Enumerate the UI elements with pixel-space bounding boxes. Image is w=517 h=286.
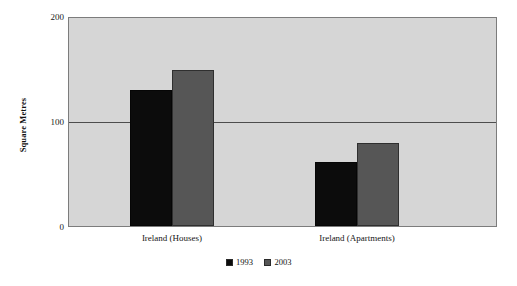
y-tick-label-100: 100 xyxy=(24,117,64,127)
legend-label-1993: 1993 xyxy=(236,258,253,267)
legend-entry-2003: 2003 xyxy=(264,258,292,267)
x-axis-label-houses: Ireland (Houses) xyxy=(102,233,242,243)
legend-swatch-icon-2003 xyxy=(264,259,271,266)
bar-outline xyxy=(357,143,399,226)
bar-houses-2003 xyxy=(172,70,214,226)
legend-entry-1993: 1993 xyxy=(226,258,254,267)
legend-swatch-icon-1993 xyxy=(226,259,233,266)
y-tick-label-0: 0 xyxy=(24,222,64,232)
y-tick-label-200: 200 xyxy=(24,12,64,22)
plot-area xyxy=(68,17,497,227)
legend-label-2003: 2003 xyxy=(275,258,292,267)
bar-houses-1993 xyxy=(130,90,172,226)
bar-outline xyxy=(315,162,357,226)
bar-outline xyxy=(172,70,214,226)
bar-apartments-1993 xyxy=(315,162,357,226)
x-axis-label-apartments: Ireland (Apartments) xyxy=(287,233,427,243)
chart-legend: 1993 2003 xyxy=(0,258,517,267)
bar-chart-figure: Square Metres 200 100 0 Ireland (Houses)… xyxy=(0,0,517,286)
bar-apartments-2003 xyxy=(357,143,399,226)
y-axis-tick-labels: 200 100 0 xyxy=(20,0,64,286)
bar-outline xyxy=(130,90,172,226)
